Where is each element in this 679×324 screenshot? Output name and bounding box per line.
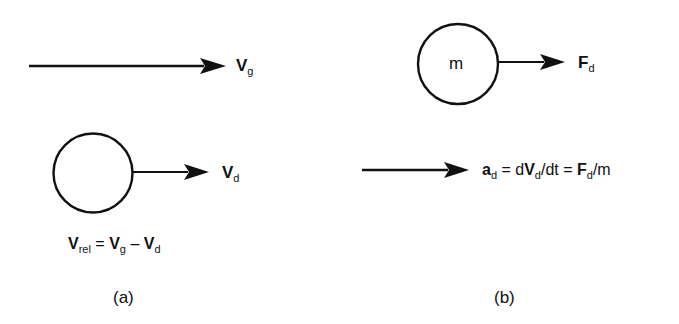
relative-velocity-equation: Vrel = Vg – Vd <box>68 236 161 255</box>
operator: – <box>130 235 139 252</box>
panel-b-caption: (b) <box>494 289 515 306</box>
drag-force-label: Fd <box>578 54 595 74</box>
vector-symbol: a <box>482 161 491 178</box>
equation-text: /dt = <box>541 161 577 178</box>
vector-symbol: F <box>577 161 587 178</box>
subscript: rel <box>79 243 91 255</box>
vector-symbol: V <box>222 163 233 182</box>
subscript: d <box>154 243 160 255</box>
vector-symbol: F <box>578 53 588 72</box>
subscript: g <box>247 65 253 77</box>
vector-symbol: V <box>68 235 79 252</box>
droplet-circle <box>54 134 133 213</box>
vector-symbol: V <box>109 235 120 252</box>
acceleration-arrow <box>362 162 469 178</box>
panel-a-caption: (a) <box>113 289 134 306</box>
droplet-velocity-arrow <box>133 164 209 180</box>
equation-text: /m <box>593 161 611 178</box>
drag-force-arrow <box>498 54 565 70</box>
gas-velocity-label: Vg <box>236 57 253 77</box>
droplet-drag-diagram: Vg Vd Vrel = Vg – Vd (a) m Fd ad = dVd/d… <box>0 0 679 324</box>
gas-velocity-arrow <box>29 58 226 74</box>
subscript: g <box>120 243 126 255</box>
operator: = <box>95 235 104 252</box>
acceleration-equation: ad = dVd/dt = Fd/m <box>482 162 611 181</box>
droplet-velocity-label: Vd <box>222 164 239 184</box>
vector-symbol: V <box>236 56 247 75</box>
vector-symbol: V <box>524 161 535 178</box>
mass-label: m <box>449 55 463 72</box>
equation-text: = d <box>497 161 524 178</box>
vector-symbol: V <box>144 235 155 252</box>
subscript: d <box>233 172 239 184</box>
subscript: d <box>588 62 594 74</box>
